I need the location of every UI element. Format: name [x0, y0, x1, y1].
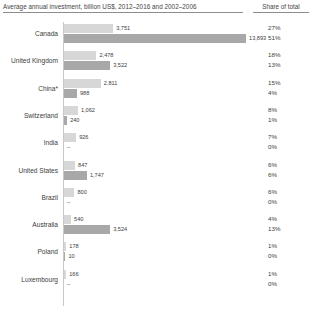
bar-row: Australia5403,5244%13%	[0, 213, 314, 240]
bar-value-label: 178	[69, 243, 78, 249]
bar-value-label: 166	[69, 271, 78, 277]
bar-track: –	[64, 198, 254, 207]
bar-row: Poland178101%0%	[0, 240, 314, 267]
bar-track: 13,893	[64, 34, 254, 43]
category-label: Switzerland	[0, 112, 58, 119]
category-label: India	[0, 139, 58, 146]
share-value: 18%	[268, 51, 280, 58]
share-value: 27%	[268, 24, 280, 31]
bar-track: 1,062	[64, 106, 254, 115]
bar-group: 926–	[64, 132, 254, 157]
bar-recent	[64, 133, 76, 142]
bar-group: 5403,524	[64, 214, 254, 239]
share-value: 6%	[268, 171, 277, 178]
bar-past	[64, 225, 110, 234]
share-value: 4%	[268, 89, 277, 96]
share-value: 6%	[268, 161, 277, 168]
bar-track: 3,522	[64, 61, 254, 70]
bar-value-label: 926	[79, 134, 88, 140]
bar-past	[64, 252, 65, 261]
category-label: United Kingdom	[0, 57, 58, 64]
bar-group: 8471,747	[64, 160, 254, 185]
bar-group: 17810	[64, 241, 254, 266]
share-value: 0%	[268, 143, 277, 150]
bar-recent	[64, 24, 113, 33]
bar-track: 178	[64, 242, 254, 251]
share-value: 0%	[268, 280, 277, 287]
category-label: Australia	[0, 221, 58, 228]
bar-value-label: 3,751	[116, 25, 130, 31]
bar-track: 1,747	[64, 171, 254, 180]
bar-recent	[64, 51, 96, 60]
bar-group: 2,4783,522	[64, 50, 254, 75]
share-value: 15%	[268, 79, 280, 86]
bar-value-label: 3,522	[113, 62, 127, 68]
bar-value-label: –	[67, 199, 70, 205]
category-label: Canada	[0, 30, 58, 37]
share-value: 1%	[268, 242, 277, 249]
share-value: 1%	[268, 270, 277, 277]
bar-past	[64, 89, 77, 98]
bar-value-label: 847	[78, 162, 87, 168]
bar-past	[64, 34, 246, 43]
bar-past	[64, 116, 67, 125]
bar-row: China*2,81198815%4%	[0, 77, 314, 104]
bar-value-label: 2,811	[104, 80, 118, 86]
share-value: 13%	[268, 225, 280, 232]
bar-value-label: 240	[70, 117, 79, 123]
category-label: Luxembourg	[0, 276, 58, 283]
share-value: 7%	[268, 133, 277, 140]
bar-value-label: 1,062	[81, 107, 95, 113]
share-value: 0%	[268, 198, 277, 205]
bar-recent	[64, 270, 66, 279]
bar-group: 800–	[64, 187, 254, 212]
category-label: Poland	[0, 248, 58, 255]
category-label: United States	[0, 167, 58, 174]
bar-track: –	[64, 143, 254, 152]
category-label: Brazil	[0, 194, 58, 201]
bar-group: 3,75113,893	[64, 23, 254, 48]
bar-past	[64, 61, 110, 70]
bar-value-label: –	[67, 144, 70, 150]
bar-row: United Kingdom2,4783,52218%13%	[0, 49, 314, 76]
chart-sheet: Average annual investment, billion US$, …	[0, 0, 314, 311]
share-value: 13%	[268, 61, 280, 68]
bar-track: 2,478	[64, 51, 254, 60]
bar-track: 3,751	[64, 24, 254, 33]
bar-track: –	[64, 280, 254, 289]
bar-value-label: 10	[68, 253, 74, 259]
bar-value-label: –	[67, 281, 70, 287]
bar-row: Brazil800–6%0%	[0, 186, 314, 213]
bar-value-label: 988	[80, 90, 89, 96]
bar-track: 847	[64, 161, 254, 170]
bar-group: 2,811988	[64, 78, 254, 103]
bar-track: 10	[64, 252, 254, 261]
bar-track: 166	[64, 270, 254, 279]
bar-past	[64, 171, 87, 180]
bar-value-label: 540	[74, 216, 83, 222]
share-value: 1%	[268, 116, 277, 123]
category-label: China*	[0, 85, 58, 92]
share-value: 8%	[268, 106, 277, 113]
bar-group: 166–	[64, 269, 254, 294]
bar-value-label: 800	[77, 189, 86, 195]
share-value: 6%	[268, 188, 277, 195]
bar-recent	[64, 242, 66, 251]
bar-track: 540	[64, 215, 254, 224]
share-value: 51%	[268, 34, 280, 41]
bar-track: 988	[64, 89, 254, 98]
bar-recent	[64, 188, 74, 197]
share-value: 0%	[268, 252, 277, 259]
bar-value-label: 2,478	[99, 52, 113, 58]
bar-recent	[64, 161, 75, 170]
bar-row: United States8471,7476%6%	[0, 159, 314, 186]
bar-recent	[64, 79, 101, 88]
bar-track: 2,811	[64, 79, 254, 88]
bar-value-label: 3,524	[113, 226, 127, 232]
bar-row: Luxembourg166–1%0%	[0, 268, 314, 295]
share-of-total-header: Share of total	[253, 3, 309, 13]
bar-row: Canada3,75113,89327%51%	[0, 22, 314, 49]
bar-track: 800	[64, 188, 254, 197]
bar-recent	[64, 106, 78, 115]
chart-title: Average annual investment, billion US$, …	[3, 3, 243, 13]
